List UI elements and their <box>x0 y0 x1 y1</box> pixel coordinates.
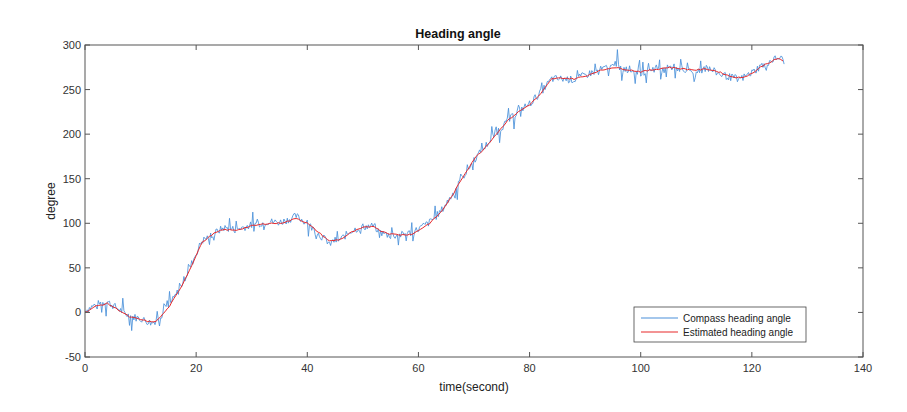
x-tick-label: 20 <box>190 362 202 374</box>
heading-angle-chart: Heading angle time(second) degree Compas… <box>0 0 907 412</box>
legend-label-compass: Compass heading angle <box>683 313 791 324</box>
y-tick-label: 150 <box>63 173 81 185</box>
x-tick-label: 100 <box>632 362 650 374</box>
x-axis-label: time(second) <box>439 380 508 394</box>
y-tick-label: -50 <box>65 351 81 363</box>
y-tick-label: 100 <box>63 217 81 229</box>
x-tick-label: 60 <box>412 362 424 374</box>
legend: Compass heading angle Estimated heading … <box>634 307 806 342</box>
legend-label-estimated: Estimated heading angle <box>683 327 794 338</box>
y-tick-label: 250 <box>63 84 81 96</box>
x-tick-label: 120 <box>743 362 761 374</box>
y-tick-label: 0 <box>75 306 81 318</box>
x-tick-label: 140 <box>854 362 872 374</box>
y-tick-label: 50 <box>69 262 81 274</box>
x-tick-label: 0 <box>82 362 88 374</box>
y-tick-label: 300 <box>63 39 81 51</box>
y-tick-label: 200 <box>63 128 81 140</box>
chart-title: Heading angle <box>415 27 500 41</box>
x-tick-label: 40 <box>301 362 313 374</box>
x-tick-label: 80 <box>523 362 535 374</box>
y-axis-label: degree <box>44 182 58 220</box>
